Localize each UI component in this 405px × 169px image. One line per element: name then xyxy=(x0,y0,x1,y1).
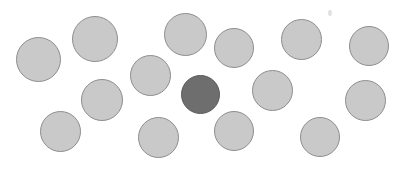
visual-search-display xyxy=(0,0,405,169)
distractor-circle[interactable] xyxy=(138,117,179,158)
distractor-circle[interactable] xyxy=(349,26,389,66)
distractor-circle[interactable] xyxy=(281,19,322,60)
distractor-circle[interactable] xyxy=(164,13,207,56)
distractor-circle[interactable] xyxy=(300,117,340,157)
distractor-circle[interactable] xyxy=(16,37,61,82)
distractor-circle[interactable] xyxy=(252,70,293,111)
scan-speckle-artifact xyxy=(328,10,332,16)
distractor-circle[interactable] xyxy=(214,111,254,151)
distractor-circle[interactable] xyxy=(130,55,171,96)
target-circle[interactable] xyxy=(181,75,220,114)
distractor-circle[interactable] xyxy=(214,28,254,68)
distractor-circle[interactable] xyxy=(345,80,386,121)
distractor-circle[interactable] xyxy=(40,111,81,152)
distractor-circle[interactable] xyxy=(81,79,123,121)
distractor-circle[interactable] xyxy=(72,16,118,62)
